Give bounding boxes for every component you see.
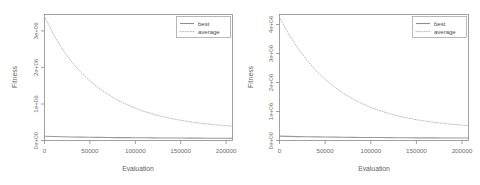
y-axis-tick-labels: 0e+00 1e+06 2e+06 3e+06 4e+06: [267, 15, 274, 149]
y-tick-label: 2e+06: [267, 73, 274, 91]
x-axis-tick-labels: 0 50000 100000 150000 200000: [43, 147, 237, 154]
legend-label-average: average: [434, 29, 456, 35]
y-axis-ticks: [41, 31, 45, 141]
x-tick-label: 100000: [125, 147, 146, 154]
y-tick-label: 4e+06: [267, 15, 274, 33]
legend-label-best: best: [434, 21, 446, 27]
chart-panel-right: 0e+00 1e+06 2e+06 3e+06 4e+06 Fitness 0 …: [240, 0, 480, 185]
plot-svg-right: 0e+00 1e+06 2e+06 3e+06 4e+06 Fitness 0 …: [240, 0, 480, 185]
y-axis-tick-labels: 0e+00 1e+06 2e+06 3e+06: [32, 22, 39, 150]
x-tick-label: 100000: [360, 147, 381, 154]
x-tick-label: 0: [43, 147, 47, 154]
x-axis-tick-labels: 0 50000 100000 150000 200000: [278, 147, 473, 154]
x-axis-ticks: [45, 141, 227, 145]
x-tick-label: 200000: [216, 147, 237, 154]
y-axis-title: Fitness: [247, 65, 254, 88]
x-tick-label: 50000: [316, 147, 334, 154]
legend-label-best: best: [198, 21, 210, 27]
y-tick-label: 1e+06: [267, 102, 274, 120]
x-tick-label: 200000: [452, 147, 473, 154]
plot-svg-left: 0e+00 1e+06 2e+06 3e+06 Fitness 0 50000 …: [0, 0, 240, 185]
y-tick-label: 0e+00: [32, 131, 39, 149]
y-tick-label: 2e+06: [32, 58, 39, 76]
series-line-best: [45, 136, 233, 138]
y-axis-ticks: [276, 25, 280, 141]
series-line-best: [280, 136, 469, 138]
x-tick-label: 150000: [170, 147, 191, 154]
x-axis-title: Evaluation: [122, 165, 154, 172]
legend-label-average: average: [198, 29, 220, 35]
x-tick-label: 0: [278, 147, 282, 154]
x-axis-ticks: [280, 141, 463, 145]
figure-canvas: 0e+00 1e+06 2e+06 3e+06 Fitness 0 50000 …: [0, 0, 480, 185]
chart-legend: best average: [413, 17, 467, 38]
y-axis-title: Fitness: [11, 65, 18, 88]
y-tick-label: 3e+06: [32, 22, 39, 40]
y-tick-label: 0e+00: [267, 131, 274, 149]
chart-legend: best average: [177, 17, 231, 38]
x-axis-title: Evaluation: [358, 165, 390, 172]
chart-panel-left: 0e+00 1e+06 2e+06 3e+06 Fitness 0 50000 …: [0, 0, 240, 185]
x-tick-label: 50000: [81, 147, 99, 154]
x-tick-label: 150000: [406, 147, 427, 154]
y-tick-label: 3e+06: [267, 44, 274, 62]
y-tick-label: 1e+06: [32, 95, 39, 113]
